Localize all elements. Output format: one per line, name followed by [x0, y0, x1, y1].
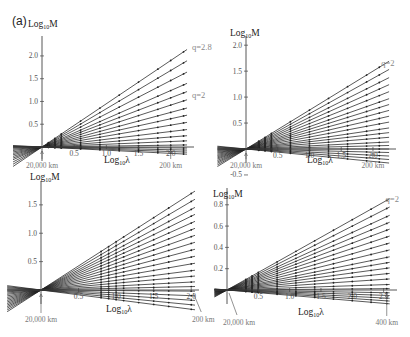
- data-point: [276, 270, 278, 272]
- data-point: [347, 117, 349, 119]
- data-point: [99, 121, 101, 123]
- data-point: [328, 144, 330, 146]
- y-tick-label: 2.0: [29, 51, 39, 60]
- data-point: [190, 256, 192, 258]
- data-point: [370, 216, 372, 218]
- data-point: [190, 249, 192, 251]
- data-point: [123, 260, 125, 262]
- data-point: [370, 294, 372, 296]
- data-point: [386, 262, 388, 264]
- data-point: [99, 142, 101, 144]
- data-point: [123, 236, 125, 238]
- data-point: [333, 282, 335, 284]
- data-point: [190, 304, 192, 306]
- data-point: [138, 130, 140, 132]
- data-point: [333, 298, 335, 300]
- data-point: [366, 120, 368, 122]
- y-tick-label: 1.5: [233, 67, 243, 76]
- data-point: [276, 268, 278, 270]
- data-point: [157, 149, 159, 151]
- data-point: [295, 272, 297, 274]
- data-point: [80, 134, 82, 136]
- data-point: [190, 286, 192, 288]
- data-point: [153, 275, 155, 277]
- data-point: [370, 270, 372, 272]
- data-point: [309, 131, 311, 133]
- data-point: [153, 239, 155, 241]
- data-point: [99, 133, 101, 135]
- data-point: [157, 126, 159, 128]
- data-point: [347, 107, 349, 109]
- data-point: [118, 100, 120, 102]
- data-point: [123, 297, 125, 299]
- distance-label: 20,000 km: [223, 318, 255, 327]
- data-point: [118, 117, 120, 119]
- y-tick-label: 1.0: [29, 97, 39, 106]
- data-point: [366, 125, 368, 127]
- data-point: [378, 123, 380, 125]
- data-point: [370, 223, 372, 225]
- data-point: [190, 243, 192, 245]
- data-point: [328, 126, 330, 128]
- data-point: [309, 120, 311, 122]
- y-tick-label: 0.5: [29, 120, 39, 129]
- data-point: [157, 141, 159, 143]
- data-point: [168, 221, 170, 223]
- x-tick-label: 1.0: [111, 292, 121, 301]
- data-point: [333, 291, 335, 293]
- data-point: [347, 136, 349, 138]
- data-point: [333, 235, 335, 237]
- data-point: [157, 86, 159, 88]
- data-point: [118, 125, 120, 127]
- y-tick-label: 1.0: [28, 229, 38, 238]
- data-point: [386, 216, 388, 218]
- data-point: [168, 232, 170, 234]
- data-point: [138, 241, 140, 243]
- data-point: [309, 134, 311, 136]
- data-point: [314, 277, 316, 279]
- data-point: [378, 137, 380, 139]
- data-point: [328, 97, 330, 99]
- q-label: q=2: [381, 58, 394, 68]
- x-tick-label: 1.0: [285, 292, 295, 301]
- y-tick-label: 0.2: [214, 264, 224, 273]
- data-point: [168, 294, 170, 296]
- data-point: [153, 304, 155, 306]
- x-tick-label: 0.5: [69, 149, 79, 158]
- data-point: [351, 232, 353, 234]
- data-point: [351, 237, 353, 239]
- data-point: [276, 277, 278, 279]
- data-point: [333, 245, 335, 247]
- data-point: [370, 299, 372, 301]
- data-point: [80, 126, 82, 128]
- data-point: [138, 299, 140, 301]
- data-point: [153, 279, 155, 281]
- data-point: [80, 129, 82, 131]
- q-label: q=2: [192, 90, 205, 100]
- data-point: [366, 130, 368, 132]
- data-point: [351, 276, 353, 278]
- data-point: [370, 292, 372, 294]
- data-point: [138, 287, 140, 289]
- data-point: [347, 133, 349, 135]
- data-point: [123, 249, 125, 251]
- data-point: [276, 272, 278, 274]
- data-point: [290, 126, 292, 128]
- data-point: [153, 264, 155, 266]
- data-point: [183, 144, 185, 146]
- data-point: [333, 275, 335, 277]
- data-point: [190, 275, 192, 277]
- y-tick-label: 1.0: [233, 93, 243, 102]
- q-label: q=2: [386, 194, 399, 204]
- data-point: [276, 281, 278, 283]
- data-point: [295, 280, 297, 282]
- data-point: [295, 269, 297, 271]
- y-tick-label: 2.0: [233, 41, 243, 50]
- panel-bottom-right: 0.20.40.60.80.51.01.52.02.5Log10MLog10λq…: [205, 165, 410, 337]
- data-point: [309, 136, 311, 138]
- data-point: [333, 267, 335, 269]
- data-point: [328, 150, 330, 152]
- data-point: [295, 263, 297, 265]
- data-point: [295, 250, 297, 252]
- data-point: [347, 151, 349, 153]
